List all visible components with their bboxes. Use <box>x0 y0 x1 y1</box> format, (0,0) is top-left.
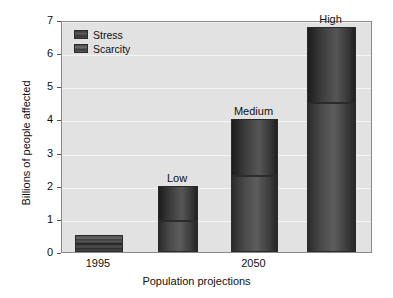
legend-label-scarcity: Scarcity <box>93 43 130 55</box>
bar-medium[interactable] <box>231 119 278 252</box>
bar-segment-scarcity[interactable] <box>307 103 356 252</box>
bar-segment-stress[interactable] <box>307 27 356 103</box>
legend-item-scarcity: Scarcity <box>74 42 130 55</box>
chart-root: Billions of people affected 01234567 Str… <box>0 0 393 298</box>
plot-area: Stress Scarcity <box>61 21 372 253</box>
x-tick-label: 1995 <box>74 257 122 269</box>
x-axis-title: Population projections <box>0 275 393 287</box>
bar-segment-stress[interactable] <box>158 186 198 221</box>
y-tick-label: 4 <box>33 113 53 125</box>
legend-item-stress: Stress <box>74 28 130 41</box>
y-tick-label: 1 <box>33 213 53 225</box>
bar-low[interactable] <box>158 186 198 252</box>
legend-label-stress: Stress <box>93 29 123 41</box>
y-tick-label: 3 <box>33 147 53 159</box>
bar-1995[interactable] <box>75 235 123 252</box>
legend: Stress Scarcity <box>74 28 130 56</box>
bar-label-medium: Medium <box>230 105 277 117</box>
y-tick-label: 7 <box>33 14 53 26</box>
y-tick-label: 6 <box>33 47 53 59</box>
x-tick-label: 2050 <box>230 257 277 269</box>
y-tick-label: 2 <box>33 180 53 192</box>
bar-segment-stress[interactable] <box>231 119 278 175</box>
y-tick-mark <box>57 253 61 254</box>
y-tick-label: 5 <box>33 80 53 92</box>
bar-high[interactable] <box>307 27 356 252</box>
legend-swatch-stress-icon <box>74 30 88 39</box>
bar-segment-scarcity[interactable] <box>231 176 278 252</box>
y-tick-label: 0 <box>33 246 53 258</box>
bar-segment-stress[interactable] <box>75 235 123 243</box>
y-axis-title: Billions of people affected <box>20 53 32 233</box>
legend-swatch-scarcity-icon <box>74 44 88 53</box>
bar-label-high: High <box>306 13 355 25</box>
bar-segment-scarcity[interactable] <box>75 244 123 252</box>
bar-segment-scarcity[interactable] <box>158 221 198 252</box>
bar-label-low: Low <box>157 172 197 184</box>
